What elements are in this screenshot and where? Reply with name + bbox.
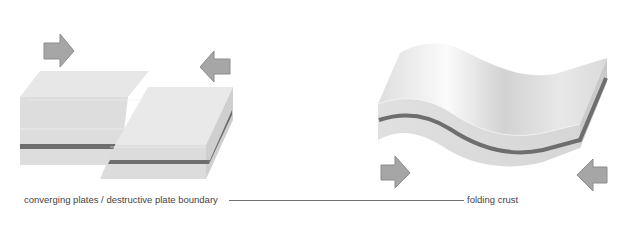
leader-line (229, 200, 464, 201)
caption-folding-crust: folding crust (467, 195, 518, 205)
arrow-right-icon (44, 34, 74, 67)
arrow-left-icon (577, 159, 607, 191)
converging-plates-illustration (20, 34, 233, 179)
caption-converging-plates: converging plates / destructive plate bo… (24, 195, 218, 205)
diagram-canvas (0, 0, 617, 243)
folding-crust-illustration (378, 44, 607, 191)
arrow-right-icon (381, 156, 410, 188)
arrow-left-icon (200, 51, 230, 82)
